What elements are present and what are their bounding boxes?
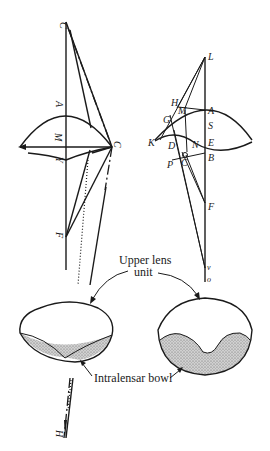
- label-A: A: [207, 105, 215, 116]
- line-L-K: [160, 57, 205, 140]
- line-M-N: [185, 110, 187, 152]
- caption-unit: unit: [134, 265, 153, 279]
- line-D-v: [174, 130, 205, 268]
- label-G: G: [163, 114, 170, 125]
- label-M: M: [53, 132, 64, 142]
- line-L-M: [185, 57, 205, 108]
- label-D: D: [167, 140, 176, 151]
- label-F: F: [207, 201, 215, 212]
- label-A: A: [54, 100, 65, 108]
- label-K: K: [147, 137, 156, 148]
- dotted-ray: [78, 160, 88, 285]
- label-H: H: [54, 429, 65, 438]
- label-N: N: [191, 139, 200, 150]
- label-Y: Y: [54, 157, 65, 164]
- right-lens: [158, 298, 252, 375]
- label-S: S: [208, 120, 213, 131]
- label-L: L: [207, 51, 214, 62]
- left-lens: [20, 302, 113, 362]
- ray-line: [70, 30, 91, 128]
- ray-to-F: [66, 150, 90, 237]
- label-E: E: [207, 137, 214, 148]
- intralensar-bowl-shading: [160, 333, 250, 375]
- label-F: F: [54, 231, 65, 239]
- label-o: o: [207, 275, 211, 284]
- label-C-top: C: [58, 22, 69, 29]
- arrowhead-icon: [90, 296, 96, 304]
- line-P-B: [172, 153, 205, 160]
- caption-intralensar-bowl: Intralensar bowl: [94, 371, 173, 385]
- label-C-right: C: [112, 141, 123, 148]
- pointer-line-right: [158, 273, 198, 296]
- lower-curve: [28, 147, 112, 160]
- label-M: M: [177, 105, 187, 116]
- label-v: v: [207, 263, 211, 272]
- ray-line: [90, 187, 106, 285]
- pointer-line-left: [92, 271, 128, 300]
- label-B: B: [208, 152, 214, 163]
- label-C: C: [181, 157, 188, 168]
- label-P: P: [166, 159, 173, 170]
- pointer-line-bowl-left: [82, 363, 92, 376]
- right-geometric-diagram: L H M A G S K D N E B P C F v o: [147, 51, 252, 284]
- optical-diagram: C A M Y C F H L H M A G S: [0, 0, 270, 451]
